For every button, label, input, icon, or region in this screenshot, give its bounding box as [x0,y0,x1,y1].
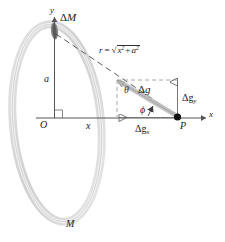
r-equation: r=√ x2+a2 [99,45,140,55]
ring-body [5,21,110,226]
diagram-svg [0,0,225,242]
phi-angle-label: ϕ [140,105,145,115]
delta-g-y-subscript: y [193,97,196,104]
delta-g-x-subscript: x [146,128,149,135]
r-symbol: r [99,45,103,55]
radicand: x2+a2 [117,45,140,55]
x-axis-label: x [209,110,213,119]
right-angle-marker [55,110,63,118]
ring-mass-label: M [66,219,74,229]
figure-canvas: y ΔM a O x x M P r=√ x2+a2 θ Δg ϕ Δgy Δg… [0,0,225,242]
delta-g-x-label: Δgx [135,124,149,135]
radicand-x-exponent: 2 [122,45,125,51]
radicand-a-exponent: 2 [136,45,139,51]
delta-g-y-delta: Δg [182,92,193,103]
mass-element-label: ΔM [60,12,76,23]
ring-radius-label: a [44,74,49,84]
x-distance-label: x [86,121,90,131]
plus-sign: + [125,45,130,55]
origin-label: O [40,120,47,130]
point-p-label: P [180,121,186,131]
delta-g-y-label: Δgy [182,93,196,104]
delta-g-label: Δg [138,84,151,95]
y-axis-label: y [50,6,54,15]
theta-angle-label: θ [124,85,129,95]
equals-sign: = [105,45,110,55]
phi-direction-arrow [148,106,153,116]
delta-g-x-delta: Δg [135,123,146,134]
